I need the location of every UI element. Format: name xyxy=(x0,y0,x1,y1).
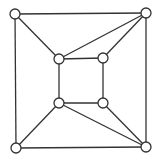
node-outer-br xyxy=(141,142,151,152)
node-outer-tl xyxy=(10,9,20,19)
node-inner-tr xyxy=(98,53,108,63)
edge-outer-tl-outer-bl xyxy=(15,14,16,148)
edge-outer-tr-inner-tl xyxy=(59,13,146,59)
edge-outer-bl-outer-br xyxy=(16,147,146,148)
edge-outer-tl-outer-tr xyxy=(15,13,146,14)
edge-outer-br-inner-bl xyxy=(59,103,146,147)
edge-inner-tl-inner-tr xyxy=(59,58,103,59)
edge-outer-tl-inner-tl xyxy=(15,14,59,59)
edges-layer xyxy=(15,13,146,148)
edge-outer-tr-inner-tr xyxy=(103,13,146,58)
node-inner-bl xyxy=(54,98,64,108)
edge-outer-bl-inner-bl xyxy=(16,103,59,148)
node-inner-br xyxy=(98,98,108,108)
node-inner-tl xyxy=(54,54,64,64)
node-outer-tr xyxy=(141,8,151,18)
graph-diagram xyxy=(0,0,161,163)
node-outer-bl xyxy=(11,143,21,153)
edge-outer-br-inner-br xyxy=(103,103,146,147)
